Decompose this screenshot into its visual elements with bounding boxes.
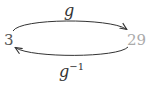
inverse-label-exponent: −1 (69, 61, 84, 72)
forward-edge-label: g (64, 3, 74, 19)
forward-label-base: g (64, 1, 74, 20)
function-inverse-diagram: 3 29 g g−1 (0, 0, 147, 85)
inverse-arrow (16, 47, 128, 55)
inverse-edge-label: g−1 (59, 62, 84, 80)
node-right: 29 (127, 33, 146, 48)
inverse-label-base: g (59, 62, 69, 81)
forward-arrow (13, 21, 126, 31)
node-left: 3 (4, 33, 14, 48)
